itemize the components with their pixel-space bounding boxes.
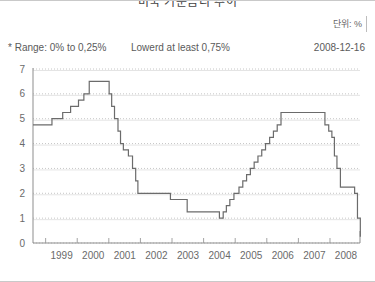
svg-text:2003: 2003 <box>177 250 200 261</box>
svg-text:2: 2 <box>19 188 25 199</box>
svg-text:4: 4 <box>19 138 25 149</box>
svg-text:1999: 1999 <box>51 250 74 261</box>
gridlines <box>33 69 360 243</box>
svg-text:7: 7 <box>19 64 25 75</box>
chart-card: 미국 기준금리 추이 단위: % * Range: 0% to 0,25% Lo… <box>0 0 375 282</box>
svg-text:5: 5 <box>19 113 25 124</box>
y-axis-labels: 01234567 <box>19 64 25 249</box>
svg-text:2008: 2008 <box>335 250 358 261</box>
note-row: * Range: 0% to 0,25% Lowerd at least 0,7… <box>0 39 375 57</box>
svg-text:3: 3 <box>19 163 25 174</box>
svg-text:2005: 2005 <box>240 250 263 261</box>
note-lowered: Lowerd at least 0,75% <box>131 39 230 57</box>
rate-line-chart: 01234567 1999200020012002200320042005200… <box>0 61 375 271</box>
x-tick-marks <box>46 238 330 243</box>
plot-frame <box>33 68 360 243</box>
data-series <box>33 81 360 236</box>
svg-text:2006: 2006 <box>272 250 295 261</box>
svg-text:2002: 2002 <box>145 250 168 261</box>
unit-label: 단위: % <box>333 16 367 32</box>
svg-text:2007: 2007 <box>303 250 326 261</box>
note-date: 2008-12-16 <box>314 39 365 57</box>
x-axis-labels: 1999200020012002200320042005200620072008 <box>51 250 358 261</box>
unit-row: 단위: % <box>333 13 367 29</box>
note-range: * Range: 0% to 0,25% <box>8 39 106 57</box>
page-title: 미국 기준금리 추이 <box>0 1 375 8</box>
svg-text:0: 0 <box>19 238 25 249</box>
svg-text:2001: 2001 <box>114 250 137 261</box>
svg-text:6: 6 <box>19 88 25 99</box>
svg-text:2000: 2000 <box>82 250 105 261</box>
svg-text:1: 1 <box>19 213 25 224</box>
chart-title-strip: 미국 기준금리 추이 <box>0 1 375 8</box>
chart-area: 01234567 1999200020012002200320042005200… <box>0 61 375 271</box>
svg-text:2004: 2004 <box>208 250 231 261</box>
